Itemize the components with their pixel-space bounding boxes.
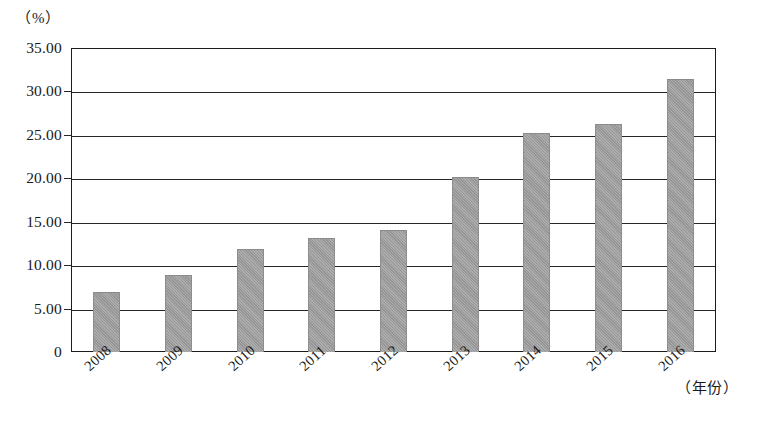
- y-axis-tick-label: 20.00: [26, 169, 62, 187]
- bar-2014: [523, 133, 550, 352]
- y-axis-tick-mark: [64, 91, 71, 92]
- y-axis-tick-mark: [64, 222, 71, 223]
- bar-2010: [237, 249, 264, 352]
- y-axis-tick-label: 10.00: [26, 256, 62, 274]
- x-axis-title: （年份）: [676, 376, 738, 397]
- bar-2008: [93, 292, 120, 352]
- bar-2009: [165, 275, 192, 352]
- y-axis-tick-mark: [64, 265, 71, 266]
- bar-2015: [595, 124, 622, 352]
- y-axis-tick-label: 25.00: [26, 126, 62, 144]
- y-axis-tick-label: 5.00: [34, 300, 62, 318]
- bar-2012: [380, 230, 407, 352]
- y-axis-tick-mark: [64, 135, 71, 136]
- x-axis-tick-labels: （年份） 20082009201020112012201320142015201…: [0, 352, 761, 422]
- bar-2013: [452, 177, 479, 352]
- bar-chart: （%） 35.0030.0025.0020.0015.0010.005.000 …: [0, 0, 761, 422]
- bars-container: [71, 48, 716, 352]
- y-axis-tick-label: 30.00: [26, 82, 62, 100]
- bar-2011: [308, 238, 335, 352]
- y-axis-tick-label: 15.00: [26, 213, 62, 231]
- y-axis-tick-mark: [64, 178, 71, 179]
- bar-2016: [667, 79, 694, 352]
- y-axis-tick-mark: [64, 309, 71, 310]
- y-axis-tick-label: 35.00: [26, 39, 62, 57]
